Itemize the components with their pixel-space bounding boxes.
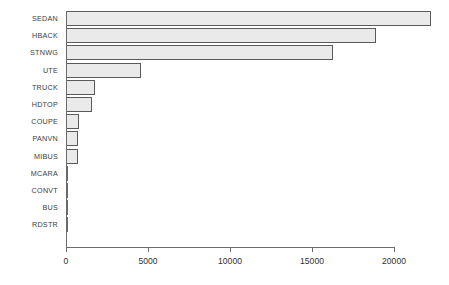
x-axis-tick-label: 10000 <box>218 256 242 266</box>
x-axis-tick-label: 20000 <box>382 256 406 266</box>
category-label: PANVN <box>2 131 58 146</box>
bar-mibus <box>66 149 78 164</box>
bar-row: STNWG <box>0 45 449 60</box>
bar-row: MCARA <box>0 166 449 181</box>
bar-hdtop <box>66 97 92 112</box>
category-label: HBACK <box>2 28 58 43</box>
category-label: MCARA <box>2 166 58 181</box>
x-axis-tick <box>312 247 313 252</box>
axis-baseline <box>66 11 67 247</box>
x-axis-tick <box>66 247 67 252</box>
x-axis-tick <box>230 247 231 252</box>
plot-area: SEDANHBACKSTNWGUTETRUCKHDTOPCOUPEPANVNMI… <box>0 0 449 285</box>
bar-row: TRUCK <box>0 80 449 95</box>
bar-row: BUS <box>0 200 449 215</box>
x-axis-tick <box>394 247 395 252</box>
bar-row: HBACK <box>0 28 449 43</box>
bar-sedan <box>66 11 431 26</box>
category-label: UTE <box>2 63 58 78</box>
bar-row: HDTOP <box>0 97 449 112</box>
category-label: MIBUS <box>2 149 58 164</box>
bar-row: RDSTR <box>0 217 449 232</box>
category-label: TRUCK <box>2 80 58 95</box>
category-label: CONVT <box>2 183 58 198</box>
bar-hback <box>66 28 376 43</box>
bar-row: UTE <box>0 63 449 78</box>
x-axis-tick-label: 5000 <box>138 256 157 266</box>
bar-chart: SEDANHBACKSTNWGUTETRUCKHDTOPCOUPEPANVNMI… <box>0 0 449 285</box>
x-axis-tick-label: 15000 <box>300 256 324 266</box>
bar-stnwg <box>66 45 333 60</box>
bar-row: SEDAN <box>0 11 449 26</box>
bar-ute <box>66 63 141 78</box>
bar-row: COUPE <box>0 114 449 129</box>
category-label: COUPE <box>2 114 58 129</box>
bar-truck <box>66 80 95 95</box>
category-label: RDSTR <box>2 217 58 232</box>
bar-row: MIBUS <box>0 149 449 164</box>
category-label: HDTOP <box>2 97 58 112</box>
bar-row: CONVT <box>0 183 449 198</box>
bar-panvn <box>66 131 78 146</box>
category-label: SEDAN <box>2 11 58 26</box>
bar-coupe <box>66 114 79 129</box>
category-label: STNWG <box>2 45 58 60</box>
category-label: BUS <box>2 200 58 215</box>
x-axis-tick-label: 0 <box>64 256 69 266</box>
x-axis-tick <box>148 247 149 252</box>
bar-row: PANVN <box>0 131 449 146</box>
